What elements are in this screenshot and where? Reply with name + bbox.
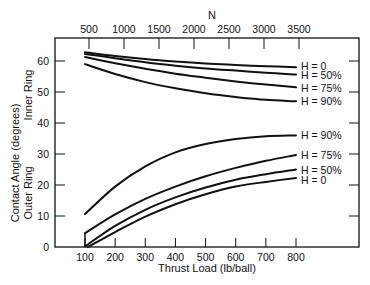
series-label: H = 75%: [301, 149, 342, 161]
y-tick-label: 30: [37, 148, 49, 160]
y-tick-label: 10: [37, 210, 49, 222]
y-tick-label: 60: [37, 55, 49, 67]
series-line-inner-ring: [85, 52, 296, 67]
y-tick-label: 40: [37, 117, 49, 129]
y-tick-label: 0: [43, 241, 49, 253]
top-tick-label: 1000: [112, 23, 136, 35]
series-label: H = 90%: [301, 129, 342, 141]
top-tick-label: 3500: [287, 23, 311, 35]
top-tick-label: 2500: [217, 23, 241, 35]
x-tick-label: 200: [106, 251, 124, 263]
x-axis-ticks: 100200300400500600700800: [76, 238, 305, 263]
y-tick-label: 50: [37, 86, 49, 98]
top-tick-label: 500: [80, 23, 98, 35]
series-line-outer-ring: [85, 155, 296, 233]
series-label: H = 0: [301, 174, 327, 186]
series-label: H = 50%: [301, 69, 342, 81]
contact-angle-chart: 100200300400500600700800 500100015002000…: [0, 0, 370, 285]
top-axis-title: N: [208, 9, 216, 21]
x-axis-title: Thrust Load (lb/ball): [158, 262, 256, 274]
top-axis-ticks: 500100015002000250030003500: [80, 23, 311, 49]
x-tick-label: 300: [137, 251, 155, 263]
series-label: H = 75%: [301, 82, 342, 94]
top-tick-label: 3000: [252, 23, 276, 35]
top-tick-label: 2000: [182, 23, 206, 35]
y-axis-outer-ring-label: Outer Ring: [22, 166, 34, 219]
y-axis-title: Contact Angle (degrees): [9, 104, 21, 223]
y-axis-inner-ring-label: Inner Ring: [22, 70, 34, 121]
series-line-inner-ring: [85, 64, 296, 101]
x-tick-label: 700: [257, 251, 275, 263]
x-tick-label: 100: [76, 251, 94, 263]
series-label: H = 90%: [301, 95, 342, 107]
series-lines: [85, 52, 296, 247]
series-labels: H = 0H = 50%H = 75%H = 90%H = 90%H = 75%…: [301, 60, 342, 186]
y-tick-label: 20: [37, 179, 49, 191]
top-tick-label: 1500: [147, 23, 171, 35]
x-tick-label: 800: [287, 251, 305, 263]
